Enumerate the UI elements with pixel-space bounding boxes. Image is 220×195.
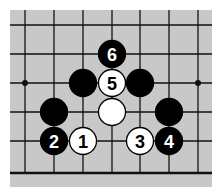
move-number: 6 (107, 45, 117, 65)
black-stone: 6 (99, 41, 126, 68)
go-board: 652134 (0, 0, 220, 195)
move-number: 2 (49, 132, 59, 152)
white-stone: 5 (99, 70, 126, 97)
black-stone (156, 99, 183, 126)
white-stone: 1 (70, 128, 97, 155)
move-number: 1 (78, 132, 88, 152)
black-stone (127, 70, 154, 97)
black-stone: 4 (156, 128, 183, 155)
black-stone: 2 (41, 128, 68, 155)
star-point (195, 80, 201, 86)
star-point (22, 80, 28, 86)
move-number: 5 (107, 74, 117, 94)
move-number: 4 (164, 132, 174, 152)
black-stone (70, 70, 97, 97)
white-stone: 3 (127, 128, 154, 155)
black-stone (41, 99, 68, 126)
white-stone (99, 99, 126, 126)
move-number: 3 (135, 132, 145, 152)
